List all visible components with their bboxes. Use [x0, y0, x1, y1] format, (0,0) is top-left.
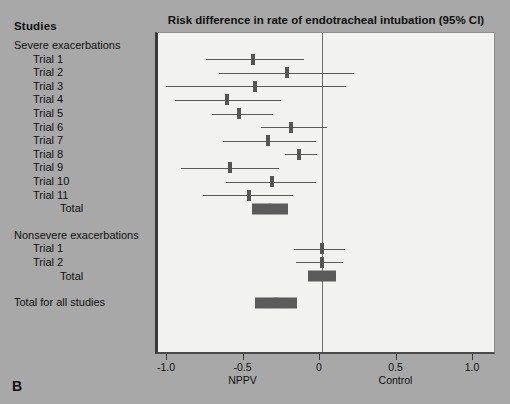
group-label: Severe exacerbations [0, 40, 162, 51]
summary-diamond [308, 271, 336, 282]
axis-arm-label: Control [379, 374, 413, 386]
axis-tick-label: -0.5 [233, 361, 251, 373]
point-estimate-marker [297, 149, 301, 160]
axis-tick-label: 1.0 [465, 361, 480, 373]
point-estimate-marker [225, 94, 229, 105]
forest-plot-panel: Studies Risk difference in rate of endot… [0, 0, 510, 404]
axis-arm-label: NPPV [228, 374, 257, 386]
studies-column-header: Studies [14, 20, 57, 32]
point-estimate-marker [228, 162, 232, 173]
x-axis: -1.0-0.500.51.0NPPVControl [155, 354, 495, 355]
chart-title: Risk difference in rate of endotracheal … [155, 14, 497, 26]
point-estimate-marker [253, 81, 257, 92]
study-label: Trial 1 [0, 54, 181, 65]
point-estimate-marker [237, 108, 241, 119]
study-label: Trial 2 [0, 67, 181, 78]
confidence-interval-line [212, 114, 273, 115]
axis-tick [472, 354, 473, 360]
confidence-interval-line [261, 127, 327, 128]
study-label: Trial 5 [0, 108, 181, 119]
study-label: Trial 4 [0, 94, 181, 105]
summary-diamond [255, 297, 296, 308]
plot-frame [155, 32, 495, 354]
point-estimate-marker [320, 243, 324, 254]
study-label: Trial 1 [0, 243, 181, 254]
axis-tick-label: 0.5 [388, 361, 403, 373]
axis-tick-label: -1.0 [157, 361, 175, 373]
study-label: Trial 7 [0, 135, 181, 146]
point-estimate-marker [270, 176, 274, 187]
confidence-interval-line [285, 154, 317, 155]
axis-tick [396, 354, 397, 360]
point-estimate-marker [320, 257, 324, 268]
study-label: Trial 11 [0, 190, 181, 201]
point-estimate-marker [266, 135, 270, 146]
study-label: Trial 8 [0, 149, 181, 160]
study-label: Trial 3 [0, 81, 181, 92]
point-estimate-marker [247, 190, 251, 201]
null-effect-line [322, 33, 323, 352]
study-label: Trial 10 [0, 176, 181, 187]
overall-total-label: Total for all studies [0, 297, 162, 308]
study-label: Trial 6 [0, 122, 181, 133]
study-label: Trial 9 [0, 162, 181, 173]
axis-tick [166, 354, 167, 360]
point-estimate-marker [289, 122, 293, 133]
point-estimate-marker [251, 54, 255, 65]
study-label: Trial 2 [0, 257, 181, 268]
plot-area [158, 33, 494, 352]
summary-diamond [252, 203, 289, 214]
axis-tick [243, 354, 244, 360]
group-label: Nonsevere exacerbations [0, 230, 162, 241]
axis-tick-label: 0 [316, 361, 322, 373]
point-estimate-marker [285, 67, 289, 78]
panel-letter: B [12, 378, 22, 394]
axis-tick [319, 354, 320, 360]
